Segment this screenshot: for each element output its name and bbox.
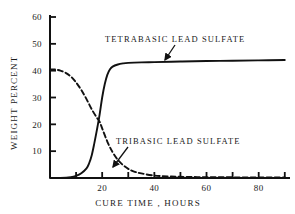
y-tick-label: 60 — [32, 12, 42, 22]
y-tick-label: 10 — [32, 146, 42, 156]
y-tick-label: 40 — [32, 66, 42, 76]
series-label-tribasic: TRIBASIC LEAD SULFATE — [116, 136, 240, 146]
line-chart: 102030405060 20406080 WEIGHT PERCENT CUR… — [0, 0, 295, 214]
x-tick-label: 60 — [202, 183, 212, 193]
chart-figure: 102030405060 20406080 WEIGHT PERCENT CUR… — [0, 0, 295, 214]
y-tick-label: 50 — [32, 39, 42, 49]
y-axis-title: WEIGHT PERCENT — [9, 56, 19, 150]
x-axis-title: CURE TIME , HOURS — [95, 198, 201, 208]
y-tick-label: 30 — [32, 93, 42, 103]
x-tick-label: 20 — [97, 183, 107, 193]
series-label-tetrabasic: TETRABASIC LEAD SULFATE — [105, 34, 245, 44]
y-tick-label: 20 — [32, 120, 42, 130]
chart-background — [0, 0, 295, 214]
x-tick-label: 40 — [149, 183, 159, 193]
x-tick-label: 80 — [254, 183, 264, 193]
